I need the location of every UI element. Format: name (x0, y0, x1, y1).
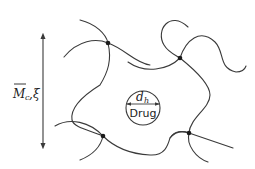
polymer-chain (128, 36, 246, 72)
molecular-weight-symbol: M (12, 87, 26, 101)
polymer-chains (55, 20, 246, 162)
drug-label: Drug (130, 107, 157, 120)
polymer-chain (161, 20, 188, 58)
mesh-size-label: M c , ξ (12, 84, 41, 102)
crosslink-node (178, 56, 183, 61)
polymer-chain (170, 132, 189, 138)
drug-particle: d h Drug (126, 90, 160, 125)
polymer-chain (72, 20, 110, 136)
polymer-chain (188, 133, 208, 162)
crosslink-node (101, 134, 106, 139)
polymer-chain (189, 133, 233, 148)
diameter-subscript: h (144, 96, 149, 105)
crosslink-node (106, 41, 111, 46)
polymer-network-diagram: M c , ξ d h Drug (0, 0, 255, 169)
polymer-chain (80, 136, 103, 160)
crosslink-node (187, 131, 192, 136)
diameter-symbol: d (136, 90, 144, 104)
mesh-size-symbol: ξ (33, 87, 41, 101)
polymer-chain (180, 58, 210, 133)
polymer-chain (55, 121, 189, 155)
